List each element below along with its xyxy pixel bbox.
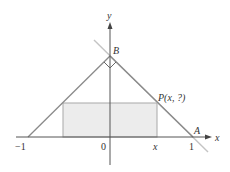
tick-label-one: 1: [189, 141, 194, 152]
y-axis-label: y: [106, 10, 112, 21]
x-axis-arrow-icon: [205, 135, 212, 140]
tick-label-x: x: [152, 141, 158, 152]
tick-label-zero: 0: [101, 141, 106, 152]
triangle-rectangle-diagram: y x B A P(x, ?) −1 0 x 1: [0, 0, 230, 172]
y-axis-arrow-icon: [108, 22, 113, 29]
point-P-label: P(x, ?): [157, 92, 186, 104]
x-axis-label: x: [214, 132, 220, 143]
point-A-label: A: [193, 125, 201, 136]
point-B-label: B: [113, 45, 119, 56]
tick-label-neg-one: −1: [15, 141, 26, 152]
